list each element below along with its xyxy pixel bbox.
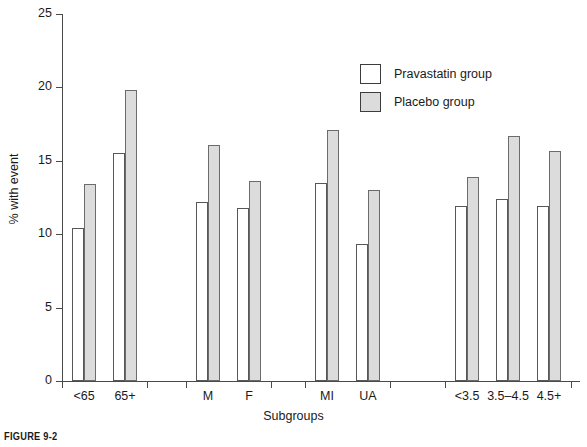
x-axis-line (62, 381, 580, 382)
x-tick (186, 382, 187, 388)
y-tick-label: 15 (16, 154, 52, 167)
bar (315, 183, 327, 381)
legend-item-pravastatin: Pravastatin group (360, 60, 492, 88)
x-tick (147, 382, 148, 388)
bar (72, 228, 84, 381)
y-tick-label: 0 (16, 374, 52, 387)
bar (208, 145, 220, 381)
x-category-label: 65+ (89, 389, 161, 403)
figure-caption: FIGURE 9-2 (4, 430, 57, 442)
bar (549, 151, 561, 381)
x-tick (390, 382, 391, 388)
legend-swatch-pravastatin (360, 64, 381, 84)
bar (327, 130, 339, 381)
bar (537, 206, 549, 381)
bar (467, 177, 479, 381)
bar (84, 184, 96, 381)
bar (455, 206, 467, 381)
bar (508, 136, 520, 381)
bar (249, 181, 261, 381)
x-category-label: 4.5+ (513, 389, 585, 403)
legend-label-pravastatin: Pravastatin group (394, 67, 492, 81)
x-tick (271, 382, 272, 388)
x-tick (62, 382, 63, 388)
x-tick (305, 382, 306, 388)
bar (368, 190, 380, 381)
x-category-label: F (213, 389, 285, 403)
x-category-label: UA (332, 389, 404, 403)
legend-swatch-placebo (360, 92, 381, 112)
bars-layer (62, 14, 580, 381)
x-axis-title: Subgroups (0, 409, 587, 423)
legend-label-placebo: Placebo group (394, 95, 475, 109)
y-tick-label: 5 (16, 301, 52, 314)
y-tick-label: 10 (16, 227, 52, 240)
bar (196, 202, 208, 381)
y-tick-label: 20 (16, 80, 52, 93)
y-tick-label: 25 (16, 7, 52, 20)
bar (496, 199, 508, 381)
figure-9-2: 0510152025 <6565+MFMIUA<3.53.5–4.54.5+ S… (0, 0, 587, 447)
x-tick (571, 382, 572, 388)
legend: Pravastatin group Placebo group (360, 60, 492, 116)
bar (356, 244, 368, 381)
bar (113, 153, 125, 381)
bar (237, 208, 249, 381)
legend-item-placebo: Placebo group (360, 88, 492, 116)
bar (125, 90, 137, 381)
x-tick (445, 382, 446, 388)
y-axis-title: % with event (7, 99, 21, 279)
